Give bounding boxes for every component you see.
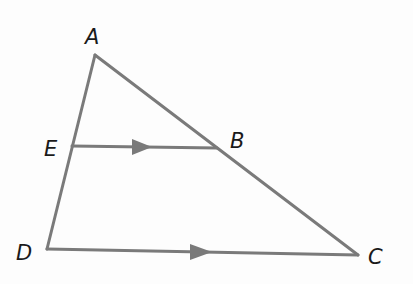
diagram-canvas: A E B D C bbox=[0, 0, 413, 284]
parallel-arrow-dc-icon bbox=[190, 244, 212, 260]
label-b: B bbox=[230, 129, 244, 153]
label-d: D bbox=[16, 241, 32, 265]
triangle-diagram: A E B D C bbox=[0, 0, 413, 284]
label-a: A bbox=[83, 25, 99, 49]
label-e: E bbox=[44, 137, 58, 161]
label-c: C bbox=[368, 245, 383, 269]
segment-ac bbox=[95, 55, 358, 255]
parallel-arrow-eb-icon bbox=[132, 139, 152, 155]
